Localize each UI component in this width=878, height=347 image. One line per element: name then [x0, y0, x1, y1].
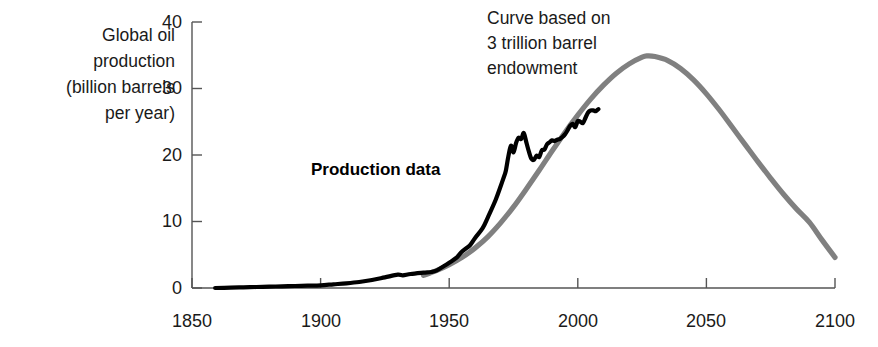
axis-lines — [192, 22, 835, 288]
plot-area — [0, 0, 878, 347]
chart-figure: Global oil production (billion barrels p… — [0, 0, 878, 347]
data-series-group — [215, 56, 835, 288]
series-line-hubbert-curve — [423, 56, 835, 276]
series-line-production-data — [215, 109, 598, 288]
